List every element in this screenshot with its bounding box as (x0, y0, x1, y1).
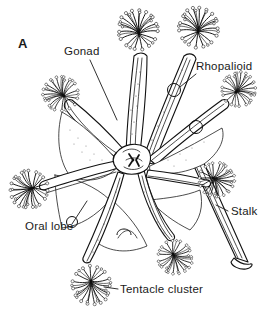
label-gonad: Gonad (64, 45, 100, 57)
panel-label: A (18, 36, 28, 51)
figure-container: A Gonad Rhopalioid Stalk Oral lobe Tenta… (0, 0, 269, 321)
label-tentacle-cluster: Tentacle cluster (120, 283, 203, 295)
label-oral-lobe: Oral lobe (25, 220, 73, 232)
label-rhopalioid: Rhopalioid (196, 60, 252, 72)
stauromedusae-diagram: A Gonad Rhopalioid Stalk Oral lobe Tenta… (0, 0, 269, 321)
label-stalk: Stalk (231, 205, 258, 217)
